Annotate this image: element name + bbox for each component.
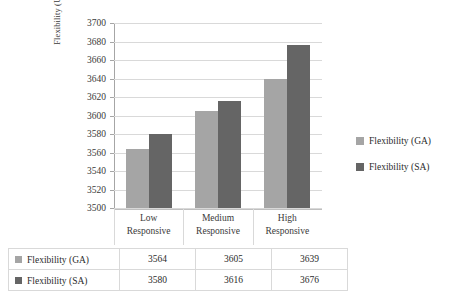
table-series-cell: Flexibility (SA)	[9, 270, 120, 291]
y-tick-label: 3560	[66, 148, 106, 158]
legend-item-ga: Flexibility (GA)	[356, 132, 460, 150]
bar-sa-2	[287, 45, 310, 208]
category-label-line: High	[253, 212, 322, 225]
table-value-cell: 3639	[272, 249, 348, 270]
gridline	[114, 42, 322, 43]
bar-sa-1	[218, 101, 241, 208]
y-tick-label: 3580	[66, 129, 106, 139]
y-tick-label: 3600	[66, 111, 106, 121]
category-label-2: HighResponsive	[253, 212, 322, 237]
table-value-cell: 3580	[120, 270, 196, 291]
table-value-cell: 3616	[196, 270, 272, 291]
table-value-cell: 3564	[120, 249, 196, 270]
category-label-line: Responsive	[184, 225, 253, 238]
plot-area	[114, 23, 322, 208]
category-label-line: Low	[114, 212, 183, 225]
y-tick-label: 3620	[66, 92, 106, 102]
legend-item-sa: Flexibility (SA)	[356, 158, 460, 176]
table-swatch-ga-icon	[15, 256, 22, 263]
table-row: Flexibility (GA)356436053639	[9, 249, 348, 270]
bar-sa-0	[149, 134, 172, 208]
category-separator	[114, 209, 115, 245]
table-row: Flexibility (SA)358036163676	[9, 270, 348, 291]
category-separator	[253, 209, 254, 245]
table-value-cell: 3676	[272, 270, 348, 291]
category-label-line: Responsive	[114, 225, 183, 238]
y-tick-label: 3520	[66, 185, 106, 195]
table-value-cell: 3605	[196, 249, 272, 270]
category-label-line: Responsive	[253, 225, 322, 238]
legend-label-ga: Flexibility (GA)	[369, 136, 431, 146]
y-tick-label: 3500	[66, 203, 106, 213]
data-table-body: Flexibility (GA)356436053639Flexibility …	[9, 249, 348, 291]
category-separator	[183, 209, 184, 245]
bar-ga-2	[264, 79, 287, 208]
table-series-cell: Flexibility (GA)	[9, 249, 120, 270]
bar-ga-0	[126, 149, 149, 208]
category-label-line: Medium	[184, 212, 253, 225]
table-swatch-sa-icon	[15, 277, 22, 284]
bar-ga-1	[195, 111, 218, 208]
table-series-label: Flexibility (SA)	[27, 275, 87, 285]
legend-label-sa: Flexibility (SA)	[369, 162, 429, 172]
table-series-label: Flexibility (GA)	[27, 254, 89, 264]
data-table: Flexibility (GA)356436053639Flexibility …	[8, 248, 348, 291]
category-label-0: LowResponsive	[114, 212, 183, 237]
y-tick-label: 3680	[66, 37, 106, 47]
y-tick-label: 3700	[66, 18, 106, 28]
legend-swatch-ga-icon	[356, 137, 364, 145]
y-tick-label: 3660	[66, 55, 106, 65]
gridline	[114, 23, 322, 24]
category-axis: LowResponsiveMediumResponsiveHighRespons…	[114, 209, 322, 245]
y-tick-label: 3640	[66, 74, 106, 84]
y-tick-label: 3540	[66, 166, 106, 176]
legend-swatch-sa-icon	[356, 163, 364, 171]
category-label-1: MediumResponsive	[184, 212, 253, 237]
chart-legend: Flexibility (GA) Flexibility (SA)	[356, 132, 460, 184]
category-axis-top-border	[114, 209, 322, 210]
